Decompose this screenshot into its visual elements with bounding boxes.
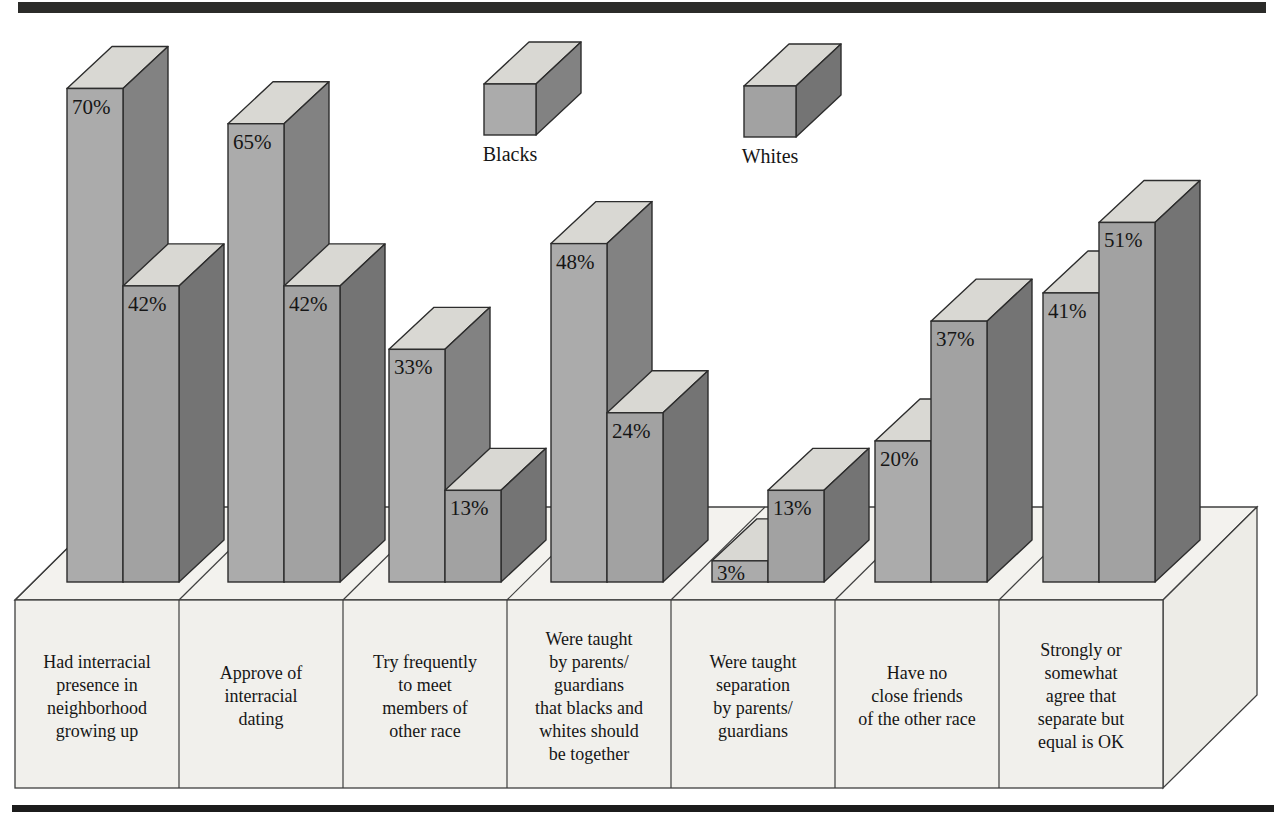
category-label-line: of the other race	[858, 709, 975, 729]
bar-value-label: 13%	[773, 496, 812, 520]
bar-value-label: 48%	[556, 250, 595, 274]
bar-chart-3d: 70%42%65%42%33%13%48%24%3%13%20%37%41%51…	[0, 0, 1279, 815]
bar-value-label: 33%	[394, 355, 433, 379]
top-rule	[18, 2, 1266, 13]
category-label-6: Strongly orsomewhatagree thatseparate bu…	[1038, 640, 1124, 752]
bar-front-face	[1043, 293, 1099, 582]
category-label-line: Try frequently	[373, 652, 477, 672]
legend-label-whites: Whites	[742, 145, 799, 167]
category-label-line: to meet	[398, 675, 451, 695]
bar-front-face	[389, 349, 445, 582]
bar-whites-1: 42%	[284, 244, 385, 582]
bar-whites-3: 24%	[607, 371, 708, 582]
category-label-line: dating	[239, 709, 284, 729]
category-label-line: equal is OK	[1038, 732, 1124, 752]
bar-front-face	[123, 286, 179, 582]
bar-side-face	[340, 244, 385, 582]
category-label-line: Approve of	[220, 663, 302, 683]
category-label-line: separate but	[1038, 709, 1124, 729]
bar-front-face	[284, 286, 340, 582]
category-label-line: by parents/	[549, 652, 628, 672]
category-label-line: guardians	[554, 675, 624, 695]
category-label-line: presence in	[56, 675, 137, 695]
category-label-line: somewhat	[1045, 663, 1118, 683]
bar-value-label: 24%	[612, 419, 651, 443]
bar-whites-6: 51%	[1099, 180, 1200, 582]
category-label-line: agree that	[1046, 686, 1116, 706]
category-label-line: Have no	[887, 663, 947, 683]
bar-front-face	[67, 89, 123, 583]
bar-value-label: 41%	[1048, 299, 1087, 323]
bottom-rule	[12, 805, 1274, 812]
bar-value-label: 51%	[1104, 228, 1143, 252]
bar-value-label: 37%	[936, 327, 975, 351]
category-label-line: interracial	[225, 686, 298, 706]
category-label-line: other race	[389, 721, 460, 741]
bar-front-face	[1099, 222, 1155, 582]
legend-cube-whites	[744, 86, 796, 137]
category-label-line: separation	[716, 675, 790, 695]
bar-whites-5: 37%	[931, 279, 1032, 582]
bar-front-face	[228, 124, 284, 582]
bar-front-face	[551, 244, 607, 582]
bar-value-label: 20%	[880, 447, 919, 471]
legend-cube-blacks	[484, 84, 536, 135]
category-label-line: close friends	[871, 686, 962, 706]
category-label-line: guardians	[718, 721, 788, 741]
bar-value-label: 42%	[289, 292, 328, 316]
category-label-line: Had interracial	[43, 652, 150, 672]
bar-value-label: 42%	[128, 292, 167, 316]
bar-value-label: 70%	[72, 95, 111, 119]
category-label-line: Were taught	[545, 629, 632, 649]
category-label-line: be together	[549, 744, 629, 764]
category-label-line: Were taught	[709, 652, 796, 672]
bar-whites-0: 42%	[123, 244, 224, 582]
bar-side-face	[179, 244, 224, 582]
bar-value-label: 65%	[233, 130, 272, 154]
bar-side-face	[1155, 180, 1200, 582]
category-label-line: whites should	[539, 721, 639, 741]
figure: 70%42%65%42%33%13%48%24%3%13%20%37%41%51…	[0, 0, 1279, 815]
bar-value-label: 13%	[450, 496, 489, 520]
bar-side-face	[987, 279, 1032, 582]
category-label-line: growing up	[56, 721, 139, 741]
bar-front-face	[931, 321, 987, 582]
bar-value-label: 3%	[717, 561, 745, 585]
category-label-line: Strongly or	[1040, 640, 1122, 660]
category-label-line: that blacks and	[535, 698, 643, 718]
category-label-line: neighborhood	[47, 698, 147, 718]
legend-label-blacks: Blacks	[483, 143, 538, 165]
category-label-line: by parents/	[713, 698, 792, 718]
category-label-line: members of	[382, 698, 467, 718]
